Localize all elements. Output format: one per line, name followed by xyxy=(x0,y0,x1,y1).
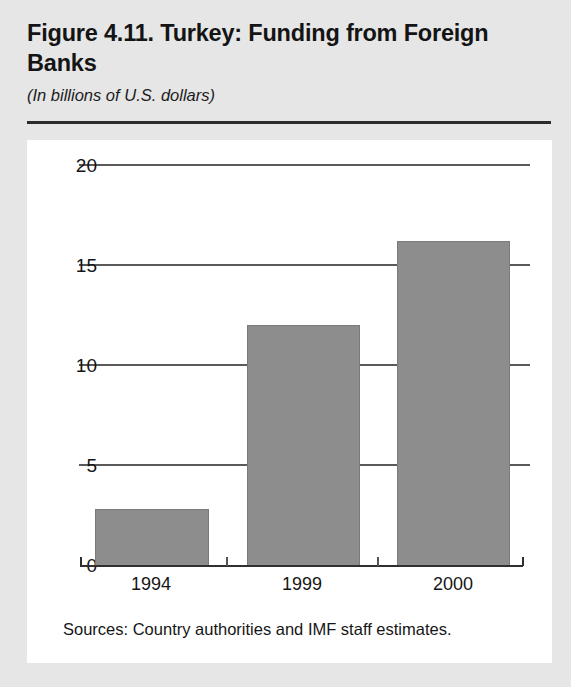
xtick-label-2000: 2000 xyxy=(393,574,513,594)
figure-title: Figure 4.11. Turkey: Funding from Foreig… xyxy=(27,18,537,78)
figure-container: Figure 4.11. Turkey: Funding from Foreig… xyxy=(0,0,571,687)
source-note: Sources: Country authorities and IMF sta… xyxy=(63,618,452,640)
ytick-label-5: 5 xyxy=(53,456,97,475)
bar-1994 xyxy=(95,509,209,566)
x-axis-tick-1 xyxy=(226,557,228,566)
x-axis-tick-2 xyxy=(377,557,379,566)
x-axis-line xyxy=(80,565,523,567)
gridline-20 xyxy=(79,164,530,166)
x-axis-right-cap xyxy=(522,557,524,566)
bar-1999 xyxy=(247,325,360,566)
bar-2000 xyxy=(397,241,510,566)
chart-panel: 20 15 10 5 0 1994 1999 2000 Sources: Cou… xyxy=(27,140,552,663)
header-divider xyxy=(27,121,551,124)
ytick-label-10: 10 xyxy=(53,356,97,375)
ytick-label-15: 15 xyxy=(53,256,97,275)
x-axis-left-cap xyxy=(80,557,82,566)
figure-subtitle: (In billions of U.S. dollars) xyxy=(27,84,537,106)
figure-header: Figure 4.11. Turkey: Funding from Foreig… xyxy=(27,18,537,106)
xtick-label-1999: 1999 xyxy=(242,574,362,594)
ytick-label-20: 20 xyxy=(53,156,97,175)
plot-area: 20 15 10 5 0 1994 1999 2000 xyxy=(27,140,552,580)
xtick-label-1994: 1994 xyxy=(91,574,211,594)
